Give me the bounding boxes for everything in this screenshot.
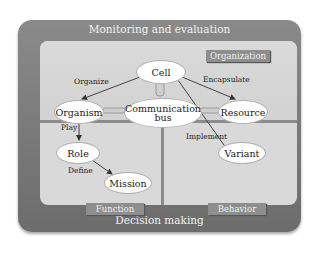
edge-define: Define: [68, 166, 93, 175]
node-resource: Resource: [218, 100, 268, 124]
edge-encapsulate: Encapsulate: [203, 75, 250, 84]
node-role: Role: [56, 142, 100, 164]
node-mission: Mission: [104, 172, 152, 194]
node-variant: Variant: [218, 142, 266, 164]
behavior-tag: Behavior: [208, 203, 266, 215]
function-tag: Function: [86, 203, 144, 215]
node-organism: Organism: [54, 100, 104, 124]
edge-play: Play: [61, 123, 77, 132]
node-communication-bus: Communication bus: [124, 98, 202, 128]
organization-tag: Organization: [206, 50, 270, 62]
edge-implement: Implement: [186, 132, 227, 141]
node-cell: Cell: [136, 60, 186, 84]
comm-line2: bus: [154, 113, 171, 122]
edge-organize: Organize: [74, 77, 109, 86]
connector-lines: [0, 0, 317, 257]
